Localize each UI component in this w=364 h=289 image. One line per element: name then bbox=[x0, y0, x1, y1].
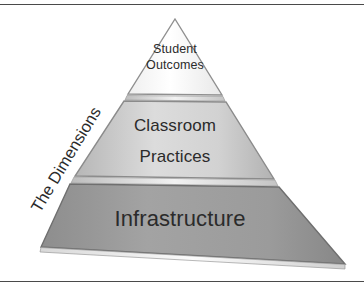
tier-label-classroom-practices: Classroom Practices bbox=[85, 110, 265, 173]
pyramid-figure: Student Outcomes Classroom Practices Inf… bbox=[0, 0, 364, 289]
tier-label-student-outcomes: Student Outcomes bbox=[115, 42, 235, 73]
divider-shape-top bbox=[125, 96, 225, 102]
tier-label-infrastructure: Infrastructure bbox=[60, 205, 300, 233]
